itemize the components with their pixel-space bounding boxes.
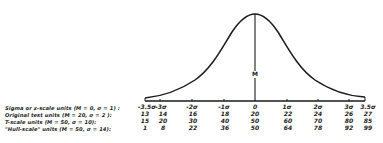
cell: 18 bbox=[221, 110, 229, 117]
row-label-original: Original test units (M = 20, σ = 2 ): bbox=[5, 112, 112, 119]
cell: 50 bbox=[251, 117, 259, 124]
cell: 22 bbox=[284, 110, 292, 117]
cell: 85 bbox=[364, 117, 372, 124]
row-label-sigma: Sigma or z-scale units (M = 0, σ = 1) : bbox=[5, 105, 120, 112]
row-label-tscale: T-scale units (M = 50, σ = 10): bbox=[5, 119, 96, 126]
cell: 0 bbox=[253, 103, 257, 110]
cell: 30 bbox=[189, 117, 197, 124]
cell: 20 bbox=[159, 117, 167, 124]
cell: 26 bbox=[345, 110, 353, 117]
cell: 14 bbox=[159, 110, 167, 117]
cell: 50 bbox=[251, 124, 259, 131]
cell: 24 bbox=[314, 110, 322, 117]
cell: -1σ bbox=[218, 103, 229, 110]
cell: 1σ bbox=[283, 103, 292, 110]
cell: 40 bbox=[221, 117, 229, 124]
mean-label: M bbox=[252, 70, 258, 77]
cell: 1 bbox=[143, 124, 147, 131]
cell: 15 bbox=[141, 117, 149, 124]
cell: 3σ bbox=[345, 103, 354, 110]
cell: -3.5σ bbox=[138, 103, 156, 110]
cell: 99 bbox=[364, 124, 372, 131]
cell: 8 bbox=[161, 124, 165, 131]
cell: 80 bbox=[345, 117, 353, 124]
cell: 92 bbox=[345, 124, 353, 131]
cell: 13 bbox=[141, 110, 149, 117]
cell: -2σ bbox=[186, 103, 197, 110]
cell: 3.5σ bbox=[360, 103, 375, 110]
cell: 2σ bbox=[314, 103, 323, 110]
row-label-hull: "Hull-scale" units (M = 50, σ = 14): bbox=[5, 126, 111, 133]
cell: 36 bbox=[221, 124, 229, 131]
cell: 20 bbox=[251, 110, 259, 117]
cell: 22 bbox=[189, 124, 197, 131]
cell: 16 bbox=[189, 110, 197, 117]
cell: 70 bbox=[314, 117, 322, 124]
cell: 78 bbox=[314, 124, 322, 131]
cell: 64 bbox=[284, 124, 292, 131]
cell: -3σ bbox=[155, 103, 166, 110]
cell: 27 bbox=[364, 110, 372, 117]
cell: 60 bbox=[284, 117, 292, 124]
